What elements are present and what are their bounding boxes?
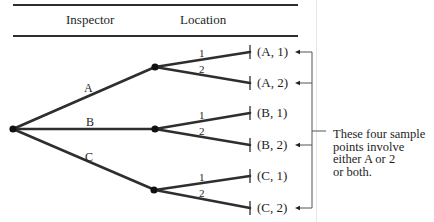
branch-label-a: A — [84, 82, 93, 94]
branch-label-c: C — [85, 151, 93, 163]
sub-label-c-1: 1 — [199, 171, 205, 183]
leaf-label-b1: (B, 1) — [257, 106, 287, 120]
sub-label-c-2: 2 — [199, 187, 205, 199]
root-node — [9, 125, 16, 132]
arrowhead-a2-icon — [295, 81, 300, 85]
node-c — [150, 186, 157, 193]
sub-label-b-1: 1 — [199, 109, 205, 121]
tree-diagram — [0, 0, 434, 222]
annotation-line-3: either A or 2 — [333, 153, 433, 166]
branch-a — [13, 67, 155, 129]
annotation-note: These four sample points involve either … — [333, 128, 433, 178]
branch-c — [13, 129, 155, 190]
arrowhead-b2-icon — [295, 143, 300, 147]
leaf-label-b2: (B, 2) — [257, 138, 287, 152]
sub-label-b-2: 2 — [199, 125, 205, 137]
leaf-label-a2: (A, 2) — [257, 76, 288, 90]
arrowhead-a1-icon — [295, 50, 300, 54]
leaf-label-a1: (A, 1) — [257, 45, 288, 59]
annotation-line-1: These four sample — [333, 128, 433, 141]
arrowhead-c2-icon — [295, 206, 300, 210]
node-a — [151, 63, 158, 70]
sub-label-a-2: 2 — [199, 63, 205, 75]
node-b — [151, 125, 158, 132]
leaf-label-c1: (C, 1) — [257, 169, 287, 183]
branch-label-b: B — [86, 116, 94, 128]
annotation-line-4: or both. — [333, 166, 433, 179]
sub-label-a-1: 1 — [199, 47, 205, 59]
leaf-label-c2: (C, 2) — [257, 201, 287, 215]
